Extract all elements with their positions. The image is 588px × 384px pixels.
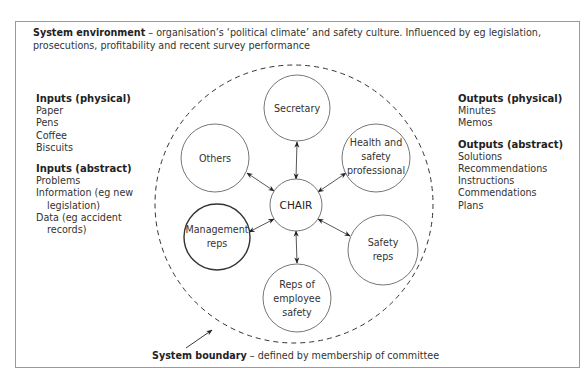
node-label: Others [199, 153, 231, 164]
double-arrow-icon [249, 219, 274, 232]
boundary-pointer-arrow-icon [186, 330, 212, 348]
system-boundary-caption: System boundary – defined by membership … [152, 350, 439, 363]
node-label: Health and [350, 137, 403, 148]
node-label: safety [361, 151, 391, 162]
node-label: Secretary [274, 103, 320, 114]
others-node: Others [181, 124, 249, 192]
node-label: safety [282, 307, 312, 318]
node-label: Safety [368, 237, 399, 248]
boundary-label: System boundary [152, 350, 247, 361]
node-label: professional [347, 165, 405, 176]
employee-safety-reps-node: Reps of employee safety [263, 264, 331, 332]
boundary-description: – defined by membership of committee [247, 350, 439, 361]
double-arrow-icon [296, 142, 297, 179]
double-arrow-icon [247, 173, 274, 191]
committee-diagram: CHAIR Secretary Health and safety profes… [0, 0, 588, 384]
secretary-node: Secretary [264, 75, 330, 141]
double-arrow-icon [318, 173, 346, 192]
node-label: Reps of [279, 279, 315, 290]
node-label: reps [207, 238, 228, 249]
chair-label: CHAIR [280, 199, 313, 211]
node-label: reps [373, 251, 394, 262]
safety-reps-node: Safety reps [348, 215, 418, 285]
management-reps-node: Management reps [184, 204, 250, 270]
double-arrow-icon [318, 219, 350, 236]
chair-node: CHAIR [270, 179, 322, 231]
node-label: employee [273, 293, 320, 304]
node-label: Management [185, 224, 248, 235]
double-arrow-icon [296, 231, 297, 263]
health-safety-professional-node: Health and safety professional [342, 124, 410, 192]
